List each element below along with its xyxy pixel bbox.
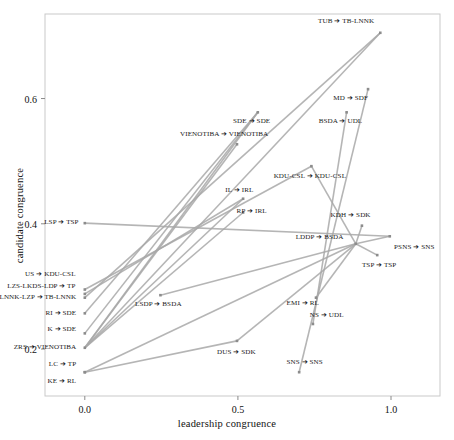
point-label: TSP ➔ TSP — [362, 263, 397, 270]
point-label: DUS ➔ SDK — [217, 350, 256, 357]
point-label: SNS ➔ SNS — [286, 359, 322, 366]
y-axis-title: candidate congruence — [14, 141, 25, 291]
point-label: VIENOTIBA ➔ VIENOTIBA — [180, 132, 268, 139]
x-axis-title: leadership congruence — [0, 418, 454, 429]
point-label: RI ➔ SDE — [45, 310, 76, 317]
plot-frame — [45, 14, 440, 396]
point-label: LSP ➔ TSP — [44, 219, 79, 226]
x-tick-label: 0.0 — [79, 404, 92, 415]
point-label: KDH ➔ SDK — [331, 213, 371, 220]
scatter-plot-figure: TUB ➔ TB-LNNKMD ➔ SDFSDE ➔ SDEBSDA ➔ UDL… — [0, 0, 454, 440]
point-label: KDU-CSL ➔ KDU-CSL — [274, 174, 346, 181]
point-label: LSDP ➔ BSDA — [135, 302, 182, 309]
x-tick-label: 1.0 — [385, 404, 398, 415]
point-label: BSDA ➔ UDL — [319, 119, 363, 126]
point-label: LNNK-LZP ➔ TB-LNNK — [0, 295, 76, 302]
point-label: KE ➔ RL — [47, 378, 76, 385]
point-label: RP ➔ IRL — [237, 208, 267, 215]
point-label: LC ➔ TP — [49, 362, 76, 369]
point-label: SDE ➔ SDE — [233, 119, 270, 126]
point-label: K ➔ SDE — [47, 326, 76, 333]
x-tick-label: 0.5 — [232, 404, 245, 415]
point-label: MD ➔ SDF — [333, 95, 368, 102]
point-label: NS ➔ UDL — [310, 313, 344, 320]
point-label: PSNS ➔ SNS — [394, 244, 435, 251]
y-tick-label: 0.2 — [0, 344, 37, 355]
point-label: US ➔ KDU-CSL — [25, 272, 76, 279]
y-tick-label: 0.6 — [0, 93, 37, 104]
connector-lines — [85, 33, 390, 372]
point-label: LDDP ➔ BSDA — [296, 235, 344, 242]
point-label: TUB ➔ TB-LNNK — [318, 19, 374, 26]
point-label: IL ➔ IRL — [225, 188, 253, 195]
point-label: EMI ➔ RL — [287, 300, 319, 307]
